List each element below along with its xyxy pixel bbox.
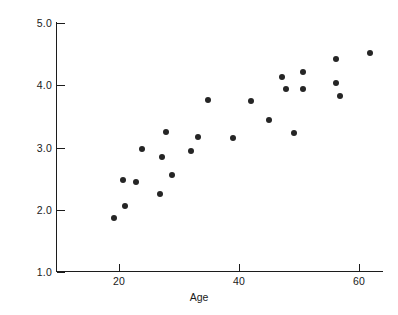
data-point	[248, 98, 254, 104]
y-tick-label: 4.0	[37, 80, 52, 91]
y-tick-label: 5.0	[37, 18, 52, 29]
y-tick-label: 3.0	[37, 143, 52, 154]
data-point	[283, 86, 289, 92]
data-point	[111, 215, 117, 221]
y-tick-label: 1.0	[37, 267, 52, 278]
data-point	[300, 86, 306, 92]
data-point	[188, 148, 194, 154]
data-point	[230, 135, 236, 141]
scatter-plot-figure: 1.02.03.04.05.0 204060 Cholesterol level…	[0, 0, 398, 315]
x-tick-mark	[239, 264, 240, 272]
data-point	[122, 203, 128, 209]
x-axis-title: Age	[0, 292, 398, 303]
data-point	[291, 130, 297, 136]
data-point	[157, 191, 163, 197]
plot-area: 1.02.03.04.05.0 204060 Cholesterol level…	[0, 0, 398, 315]
x-axis-line	[56, 271, 383, 272]
data-point	[279, 74, 285, 80]
data-point	[333, 80, 339, 86]
x-tick-mark	[119, 264, 120, 272]
y-axis-title: Cholesterol level	[4, 60, 22, 220]
y-tick-mark	[57, 148, 65, 149]
y-tick-label: 2.0	[37, 205, 52, 216]
data-point	[133, 179, 139, 185]
data-point	[333, 56, 339, 62]
y-tick-mark	[57, 272, 65, 273]
x-axis-title-text: Age	[2, 292, 209, 303]
data-point	[195, 134, 201, 140]
data-point	[169, 172, 175, 178]
data-point	[367, 50, 373, 56]
data-point	[120, 177, 126, 183]
data-point	[159, 154, 165, 160]
x-tick-label: 40	[233, 276, 245, 287]
y-tick-mark	[57, 85, 65, 86]
x-tick-mark	[359, 264, 360, 272]
data-point	[139, 146, 145, 152]
x-tick-label: 60	[353, 276, 365, 287]
data-point	[337, 93, 343, 99]
data-point	[205, 97, 211, 103]
y-tick-mark	[57, 23, 65, 24]
x-tick-label: 20	[113, 276, 125, 287]
data-point	[266, 117, 272, 123]
data-point	[163, 129, 169, 135]
y-tick-mark	[57, 210, 65, 211]
data-point	[300, 69, 306, 75]
